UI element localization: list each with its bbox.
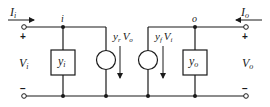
input-plus-terminal bbox=[22, 25, 27, 30]
output-plus-terminal bbox=[244, 25, 249, 30]
ground-dot bbox=[61, 94, 65, 98]
node-i-label: i bbox=[61, 13, 64, 24]
input-voltage-label: Vi bbox=[19, 56, 29, 71]
output-current-label: Io bbox=[240, 5, 249, 20]
output-minus-terminal bbox=[244, 94, 249, 99]
input-current-label: Ii bbox=[9, 5, 16, 20]
input-plus-sign: + bbox=[20, 31, 26, 42]
reverse-current-source-icon bbox=[97, 51, 116, 70]
ground-dot bbox=[146, 94, 150, 98]
output-minus-sign: − bbox=[242, 83, 248, 94]
node-o-dot bbox=[193, 25, 197, 29]
two-port-circuit-diagram: Ii Io i o + − + − Vi Vo yi yo yrVo yfVi bbox=[0, 0, 270, 107]
input-minus-sign: − bbox=[20, 83, 26, 94]
ground-dot bbox=[104, 94, 108, 98]
reverse-source-label: yrVo bbox=[112, 30, 133, 44]
node-o-label: o bbox=[192, 13, 197, 24]
node-i-dot bbox=[61, 25, 65, 29]
output-plus-sign: + bbox=[242, 31, 248, 42]
forward-source-label: yfVi bbox=[154, 30, 173, 44]
forward-current-source-icon bbox=[139, 51, 158, 70]
ground-dot bbox=[193, 94, 197, 98]
input-minus-terminal bbox=[22, 94, 27, 99]
output-voltage-label: Vo bbox=[242, 56, 253, 71]
